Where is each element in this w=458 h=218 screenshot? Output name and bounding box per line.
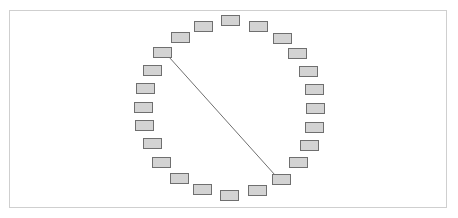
node-8	[306, 123, 324, 133]
node-17	[144, 139, 162, 149]
network-diagram	[0, 0, 458, 218]
node-16	[153, 158, 171, 168]
node-6	[306, 85, 324, 95]
node-23	[172, 33, 190, 43]
edge-22-11	[169, 57, 275, 175]
node-1	[222, 16, 240, 26]
node-12	[249, 186, 267, 196]
node-21	[144, 66, 162, 76]
node-18	[136, 121, 154, 131]
node-22	[154, 48, 172, 58]
node-3	[274, 34, 292, 44]
nodes-layer	[135, 16, 325, 201]
node-24	[195, 22, 213, 32]
node-7	[307, 104, 325, 114]
node-4	[289, 49, 307, 59]
node-9	[301, 141, 319, 151]
node-20	[137, 84, 155, 94]
node-14	[194, 185, 212, 195]
edges-layer	[169, 57, 275, 175]
node-15	[171, 174, 189, 184]
node-5	[300, 67, 318, 77]
node-19	[135, 103, 153, 113]
node-10	[290, 158, 308, 168]
node-13	[221, 191, 239, 201]
node-11	[273, 175, 291, 185]
node-2	[250, 22, 268, 32]
